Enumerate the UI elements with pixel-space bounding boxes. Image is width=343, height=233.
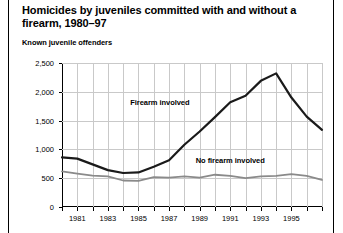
x-tick-mark xyxy=(215,207,216,211)
y-tick-label: 0 xyxy=(12,203,54,212)
x-tick-label: 1983 xyxy=(100,214,117,223)
x-tick-label: 1981 xyxy=(69,214,86,223)
y-tick-label: 2,500 xyxy=(12,59,54,68)
x-tick-mark xyxy=(77,207,78,211)
x-tick-mark xyxy=(138,207,139,211)
x-tick-mark xyxy=(200,207,201,211)
x-tick-mark xyxy=(154,207,155,211)
plot-area: 05001,0001,5002,0002,500 198119831985198… xyxy=(62,63,322,207)
figure-subtitle: Known juvenile offenders xyxy=(22,38,112,47)
x-tick-mark xyxy=(261,207,262,211)
series-line-firearm-involved xyxy=(62,73,322,173)
series-label-firearm-involved: Firearm involved xyxy=(130,98,189,107)
y-tick-label: 500 xyxy=(12,174,54,183)
x-tick-mark xyxy=(322,207,323,211)
x-tick-mark xyxy=(276,207,277,211)
series-label-no-firearm-involved: No firearm involved xyxy=(196,156,265,165)
page-right-rule xyxy=(333,0,334,233)
x-tick-mark xyxy=(169,207,170,211)
x-tick-label: 1993 xyxy=(252,214,269,223)
x-tick-mark xyxy=(307,207,308,211)
x-tick-mark xyxy=(123,207,124,211)
figure-title: Homicides by juveniles committed with an… xyxy=(22,4,322,30)
y-tick-label: 2,000 xyxy=(12,88,54,97)
series-line-no-firearm-involved xyxy=(62,171,322,181)
x-tick-mark xyxy=(108,207,109,211)
x-tick-label: 1987 xyxy=(161,214,178,223)
x-tick-mark xyxy=(291,207,292,211)
gridline-vertical xyxy=(322,63,323,207)
x-tick-label: 1991 xyxy=(222,214,239,223)
figure-page: Homicides by juveniles committed with an… xyxy=(0,0,343,233)
x-tick-mark xyxy=(62,207,63,211)
x-tick-label: 1985 xyxy=(130,214,147,223)
x-tick-label: 1989 xyxy=(191,214,208,223)
y-tick-label: 1,000 xyxy=(12,145,54,154)
page-left-rule xyxy=(8,0,9,233)
x-tick-mark xyxy=(93,207,94,211)
y-tick-label: 1,500 xyxy=(12,117,54,126)
x-tick-label: 1995 xyxy=(283,214,300,223)
x-tick-mark xyxy=(184,207,185,211)
x-tick-mark xyxy=(230,207,231,211)
series-lines xyxy=(62,63,322,207)
x-tick-mark xyxy=(246,207,247,211)
